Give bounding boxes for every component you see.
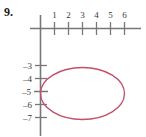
x-tick-label-3: 3 bbox=[80, 10, 85, 20]
problem-figure: 9. 1 2 3 4 5 6 bbox=[0, 0, 146, 137]
coordinate-plane-graph: 1 2 3 4 5 6 –3 –4 –5 –6 –7 bbox=[0, 0, 146, 137]
x-tick-label-2: 2 bbox=[66, 10, 71, 20]
x-axis-tick-labels: 1 2 3 4 5 6 bbox=[52, 10, 127, 20]
ellipse-curve bbox=[41, 68, 125, 120]
x-tick-label-5: 5 bbox=[108, 10, 113, 20]
y-tick-label-neg4: –4 bbox=[22, 74, 33, 84]
y-tick-label-neg3: –3 bbox=[22, 61, 33, 71]
y-tick-label-neg6: –6 bbox=[22, 100, 33, 110]
x-tick-label-1: 1 bbox=[52, 10, 57, 20]
x-tick-label-4: 4 bbox=[94, 10, 99, 20]
x-tick-label-6: 6 bbox=[122, 10, 127, 20]
y-axis-tick-labels: –3 –4 –5 –6 –7 bbox=[21, 61, 33, 123]
y-tick-label-neg5: –5 bbox=[21, 87, 32, 97]
y-tick-label-neg7: –7 bbox=[22, 113, 33, 123]
